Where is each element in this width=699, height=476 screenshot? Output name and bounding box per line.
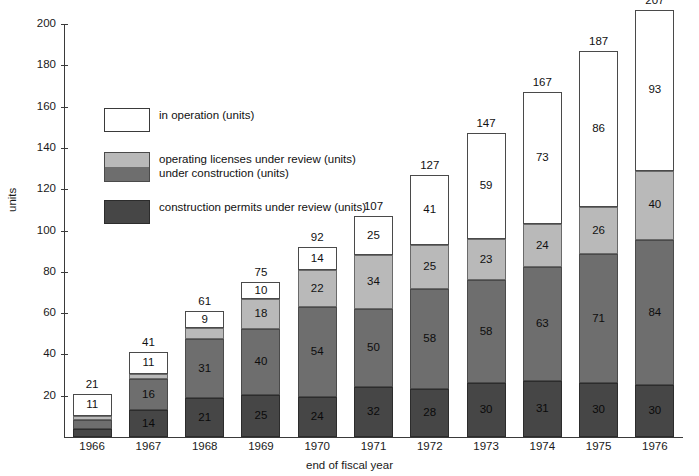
- bar-segment-under-construction: 31: [185, 339, 224, 397]
- x-axis-tick-label: 1966: [64, 440, 121, 452]
- bar-1972: 28582541: [410, 175, 449, 437]
- y-axis-tick: [61, 272, 68, 273]
- x-axis-title: end of fiscal year: [0, 459, 699, 471]
- y-axis-tick: [61, 148, 68, 149]
- y-axis-tick: [61, 313, 68, 314]
- bar-segment-under-construction: 54: [298, 307, 337, 397]
- bar-segment-value-label: 14: [311, 253, 324, 265]
- y-axis-tick-label: 40: [14, 347, 56, 359]
- bar-segment-value-label: 59: [480, 180, 493, 192]
- bar-segment-value-label: 9: [201, 314, 207, 326]
- bar-segment-value-label: 86: [592, 123, 605, 135]
- y-axis-tick: [61, 65, 68, 66]
- legend-swatch-under-construction: [105, 167, 149, 181]
- bar-segment-in-operation: 41: [410, 175, 449, 246]
- bar-segment-operating-licenses: 34: [354, 255, 393, 308]
- y-axis-tick-label: 100: [14, 224, 56, 236]
- x-axis-tick-label: 1973: [458, 440, 515, 452]
- bar-segment-value-label: 18: [255, 308, 268, 320]
- bar-1973: 30582359: [467, 133, 506, 437]
- bar-segment-value-label: 14: [142, 418, 155, 430]
- bar-segment-value-label: 63: [536, 318, 549, 330]
- bar-1974: 31632473: [523, 92, 562, 437]
- x-axis-tick-label: 1975: [570, 440, 627, 452]
- bar-segment-construction-permits: 21: [185, 398, 224, 437]
- bar-total-label-1969: 75: [231, 266, 290, 278]
- bar-segment-value-label: 11: [142, 357, 154, 369]
- y-axis-tick-label: 140: [14, 141, 56, 153]
- bar-segment-value-label: 58: [423, 333, 436, 345]
- x-axis-tick-label: 1970: [289, 440, 346, 452]
- bar-total-label-1975: 187: [569, 35, 628, 47]
- bar-segment-in-operation: 14: [298, 247, 337, 270]
- bar-segment-value-label: 40: [648, 199, 661, 211]
- bar-1975: 30712686: [579, 51, 618, 437]
- legend-label-construction-permits: construction permits under review (units…: [159, 200, 366, 214]
- bar-segment-construction-permits: 32: [354, 387, 393, 437]
- bar-segment-value-label: 28: [423, 407, 436, 419]
- y-axis-tick-label: 200: [14, 17, 56, 29]
- bar-1968: 213169: [185, 311, 224, 437]
- x-axis-tick-label: 1976: [626, 440, 683, 452]
- bar-segment-operating-licenses: 40: [635, 171, 674, 240]
- bar-total-label-1973: 147: [457, 117, 516, 129]
- legend-swatch-construction-permits: [104, 200, 150, 224]
- bar-total-label-1974: 167: [513, 76, 572, 88]
- plot-area: 1114163112131692540181024542214325034252…: [64, 24, 683, 437]
- bar-segment-in-operation: 9: [185, 311, 224, 328]
- bar-segment-under-construction: 58: [467, 280, 506, 384]
- x-axis-tick-label: 1974: [514, 440, 571, 452]
- bar-segment-construction-permits: 30: [467, 383, 506, 437]
- bar-segment-value-label: 50: [367, 342, 380, 354]
- bar-segment-under-construction: 58: [410, 289, 449, 389]
- bar-segment-value-label: 30: [648, 405, 661, 417]
- bar-1976: 30844093: [635, 10, 674, 437]
- bar-segment-under-construction: 63: [523, 267, 562, 381]
- bar-segment-operating-licenses: [73, 416, 112, 420]
- bar-segment-operating-licenses: 23: [467, 239, 506, 280]
- bar-total-label-1972: 127: [400, 159, 459, 171]
- bar-total-label-1970: 92: [288, 231, 347, 243]
- bar-segment-value-label: 10: [255, 285, 268, 297]
- y-axis-tick-label: 20: [14, 389, 56, 401]
- bar-segment-operating-licenses: 22: [298, 270, 337, 307]
- bar-segment-under-construction: 71: [579, 254, 618, 383]
- bar-segment-value-label: 21: [198, 412, 211, 424]
- legend-swatch-operating-licenses: [105, 153, 149, 167]
- legend-labels-licenses-construction: operating licenses under review (units) …: [159, 152, 356, 180]
- bar-segment-value-label: 71: [592, 313, 605, 325]
- bar-segment-in-operation: 93: [635, 10, 674, 171]
- y-axis-tick: [61, 396, 68, 397]
- bar-total-label-1966: 21: [63, 378, 122, 390]
- bar-segment-operating-licenses: 3: [129, 374, 168, 380]
- y-axis-tick-label: 160: [14, 100, 56, 112]
- bar-segment-construction-permits: 14: [129, 410, 168, 437]
- bar-segment-in-operation: 11: [73, 394, 112, 417]
- bar-segment-construction-permits: 28: [410, 389, 449, 437]
- bar-1971: 32503425: [354, 216, 393, 437]
- bar-1969: 25401810: [241, 282, 280, 437]
- y-axis-tick: [61, 231, 68, 232]
- legend-swatch-split-licenses-construction: [104, 152, 150, 182]
- bar-segment-value-label: 25: [367, 230, 380, 242]
- bar-segment-value-label: 30: [480, 404, 493, 416]
- y-axis-tick-label: 60: [14, 306, 56, 318]
- bar-segment-in-operation: 11: [129, 352, 168, 373]
- bar-segment-construction-permits: 30: [579, 383, 618, 437]
- bar-segment-value-label: 40: [255, 356, 268, 368]
- x-axis-tick-label: 1969: [232, 440, 289, 452]
- bar-segment-construction-permits: 24: [298, 397, 337, 437]
- bar-segment-under-construction: 50: [354, 309, 393, 387]
- y-axis-tick: [61, 107, 68, 108]
- bar-1967: 1416311: [129, 352, 168, 437]
- x-axis-tick-label: 1968: [176, 440, 233, 452]
- bar-segment-under-construction: 84: [635, 240, 674, 385]
- bar-segment-value-label: 22: [311, 283, 324, 295]
- bar-segment-construction-permits: 31: [523, 381, 562, 437]
- bar-segment-value-label: 34: [367, 276, 380, 288]
- bar-segment-value-label: 58: [480, 326, 493, 338]
- bar-1966: 11: [73, 394, 112, 437]
- bar-segment-operating-licenses: 18: [241, 299, 280, 329]
- bar-segment-in-operation: 73: [523, 92, 562, 224]
- bar-total-label-1971: 107: [344, 200, 403, 212]
